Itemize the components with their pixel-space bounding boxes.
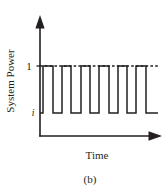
x-axis-title: Time	[86, 149, 109, 161]
y-tick-label-high: 1	[26, 60, 32, 72]
x-axis	[39, 131, 162, 140]
y-tick-label-low: i	[32, 108, 35, 118]
figure-caption: (b)	[84, 173, 97, 186]
y-axis-title: System Power	[4, 49, 16, 113]
figure-panel-b: 1 i System Power Time (b)	[0, 0, 168, 192]
x-axis-arrow-icon	[149, 131, 163, 140]
system-power-waveform	[40, 66, 158, 113]
y-axis-arrow-icon	[35, 15, 44, 29]
system-power-vs-time-chart: 1 i System Power Time (b)	[0, 0, 168, 192]
